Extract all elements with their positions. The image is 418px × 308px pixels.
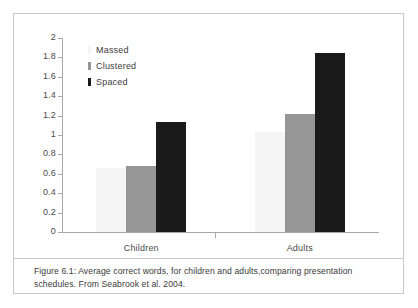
bar (255, 132, 285, 232)
x-axis-category-label: Children (101, 242, 181, 254)
legend-item: Clustered (88, 58, 178, 74)
y-axis-tick-label: 0 (51, 227, 56, 236)
legend-item: Spaced (88, 74, 178, 90)
chart-legend: MassedClusteredSpaced (88, 42, 178, 90)
bar-group (255, 38, 345, 232)
bar (96, 168, 126, 232)
bar (156, 122, 186, 232)
legend-item-label: Clustered (96, 61, 136, 71)
y-axis-tick-labels: 00.20.40.60.811.21.41.61.82 (22, 14, 56, 258)
bar (315, 53, 345, 232)
y-axis-tick-label: 0.4 (43, 188, 56, 197)
legend-item: Massed (88, 42, 178, 58)
chart-region: 00.20.40.60.811.21.41.61.82 ChildrenAdul… (14, 14, 403, 258)
y-axis-tick-label: 2 (51, 33, 56, 42)
x-axis-category-divider-tick (215, 233, 216, 238)
legend-swatch-icon (88, 62, 91, 70)
figure-caption-text: Figure 6.1: Average correct words, for c… (34, 265, 389, 291)
legend-swatch-icon (88, 46, 91, 54)
y-axis-tick-label: 0.2 (43, 208, 56, 217)
figure-frame: 00.20.40.60.811.21.41.61.82 ChildrenAdul… (13, 13, 404, 294)
y-axis-tick-label: 1.6 (43, 72, 56, 81)
legend-item-label: Spaced (96, 77, 128, 87)
legend-swatch-icon (88, 78, 91, 86)
figure-caption: Figure 6.1: Average correct words, for c… (14, 259, 403, 293)
x-axis-line (62, 232, 379, 233)
y-axis-tick-label: 0.6 (43, 169, 56, 178)
y-axis-tick-label: 1.2 (43, 111, 56, 120)
x-axis-category-labels: ChildrenAdults (62, 242, 379, 256)
bar (126, 166, 156, 232)
y-axis-tick-label: 1.4 (43, 91, 56, 100)
y-axis-tick-label: 1.8 (43, 52, 56, 61)
bar (285, 114, 315, 232)
legend-item-label: Massed (96, 45, 129, 55)
y-axis-tick-label: 0.8 (43, 149, 56, 158)
x-axis-category-label: Adults (260, 242, 340, 254)
y-axis-tick-label: 1 (51, 130, 56, 139)
